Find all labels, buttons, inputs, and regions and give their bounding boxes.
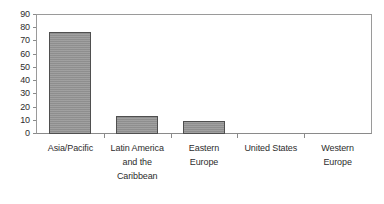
y-axis-tick-mark bbox=[33, 107, 36, 108]
y-axis-tick-mark bbox=[33, 14, 36, 15]
y-axis-tick-label: 90 bbox=[20, 10, 33, 19]
y-axis-tick-mark bbox=[33, 54, 36, 55]
bar[interactable] bbox=[49, 32, 91, 134]
bar-slot bbox=[104, 15, 171, 134]
x-axis-tick-mark bbox=[237, 134, 238, 138]
y-axis-tick-mark bbox=[33, 133, 36, 134]
y-axis-tick-mark bbox=[33, 93, 36, 94]
x-axis-category-label: EasternEurope bbox=[171, 141, 238, 169]
bar[interactable] bbox=[116, 116, 158, 135]
x-axis-category-label: Asia/Pacific bbox=[37, 141, 104, 155]
y-axis-tick-mark bbox=[33, 67, 36, 68]
x-axis-labels: Asia/PacificLatin Americaand theCaribbea… bbox=[37, 141, 371, 201]
x-axis-category-label-line: Caribbean bbox=[104, 169, 171, 183]
y-axis-tick-mark bbox=[33, 80, 36, 81]
y-axis-tick-label: 80 bbox=[20, 23, 33, 32]
bar-slot bbox=[237, 15, 304, 134]
y-axis-tick-label: 20 bbox=[20, 103, 33, 112]
x-axis-category-label: WesternEurope bbox=[304, 141, 371, 169]
x-axis-category-label-line: and the bbox=[104, 155, 171, 169]
x-axis-tick-mark bbox=[171, 134, 172, 138]
x-axis-category-label-line: Asia/Pacific bbox=[37, 141, 104, 155]
bar[interactable] bbox=[183, 121, 225, 134]
x-axis-tick-mark bbox=[304, 134, 305, 138]
y-axis-tick-mark bbox=[33, 120, 36, 121]
bar-slot bbox=[304, 15, 371, 134]
bars-layer bbox=[37, 15, 371, 134]
y-axis-tick-label: 60 bbox=[20, 50, 33, 59]
x-axis-category-label-line: United States bbox=[237, 141, 304, 155]
y-axis-tick-label: 30 bbox=[20, 89, 33, 98]
y-axis-tick-mark bbox=[33, 27, 36, 28]
y-axis: 9080706050403020100 bbox=[0, 14, 36, 135]
y-axis-tick-label: 0 bbox=[25, 129, 33, 138]
bar-slot bbox=[171, 15, 238, 134]
y-axis-tick-label: 10 bbox=[20, 116, 33, 125]
y-axis-tick-label: 50 bbox=[20, 63, 33, 72]
x-axis-tick-mark bbox=[104, 134, 105, 138]
x-axis-category-label-line: Latin America bbox=[104, 141, 171, 155]
x-axis-category-label-line: Europe bbox=[171, 155, 238, 169]
bar-slot bbox=[37, 15, 104, 134]
x-axis-category-label: Latin Americaand theCaribbean bbox=[104, 141, 171, 183]
bar-chart: 9080706050403020100 Asia/PacificLatin Am… bbox=[0, 0, 384, 204]
x-axis-category-label: United States bbox=[237, 141, 304, 155]
x-axis-category-label-line: Europe bbox=[304, 155, 371, 169]
x-axis-category-label-line: Western bbox=[304, 141, 371, 155]
y-axis-tick-label: 40 bbox=[20, 76, 33, 85]
y-axis-tick-label: 70 bbox=[20, 36, 33, 45]
x-axis-category-label-line: Eastern bbox=[171, 141, 238, 155]
y-axis-tick-mark bbox=[33, 40, 36, 41]
